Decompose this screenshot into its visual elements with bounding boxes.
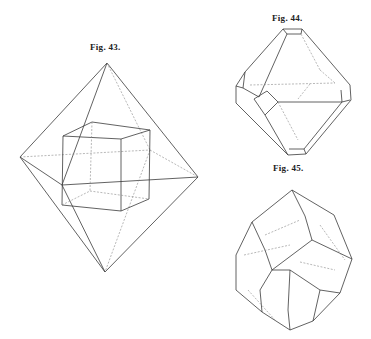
fig-45-crystal: [236, 190, 352, 330]
fig-44-crystal: [236, 29, 351, 155]
fig-43-octahedron: [20, 63, 198, 272]
crystal-figures: [0, 0, 371, 339]
fig-43-cube: [62, 122, 150, 211]
